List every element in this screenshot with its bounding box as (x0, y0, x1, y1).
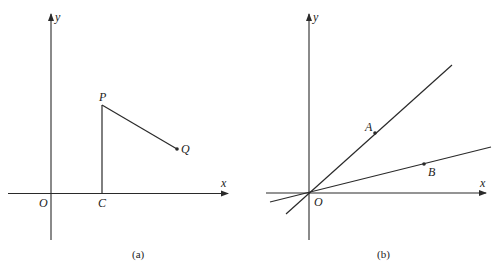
origin-label-b: O (314, 195, 323, 209)
y-axis-label-a: y (54, 10, 61, 24)
point-a-label: A (364, 120, 373, 134)
panel-a: y x O P Q C (a) (8, 10, 228, 261)
point-q-label: Q (181, 142, 190, 156)
panel-b: y x O A B (b) (266, 10, 491, 261)
y-axis-label-b: y (312, 10, 319, 24)
point-p-label: P (98, 90, 107, 104)
point-b (422, 162, 426, 166)
x-axis-label-b: x (479, 176, 486, 190)
segment-pq (102, 105, 177, 149)
origin-label-a: O (39, 196, 48, 210)
point-a (373, 131, 377, 135)
point-c-label: C (98, 196, 107, 210)
point-q (175, 147, 179, 151)
caption-b: (b) (377, 248, 390, 261)
point-b-label: B (428, 165, 436, 179)
caption-a: (a) (132, 248, 145, 261)
line-ob (270, 147, 491, 202)
figure: y x O P Q C (a) y x O A B (b) (0, 0, 493, 274)
x-axis-label-a: x (220, 176, 227, 190)
